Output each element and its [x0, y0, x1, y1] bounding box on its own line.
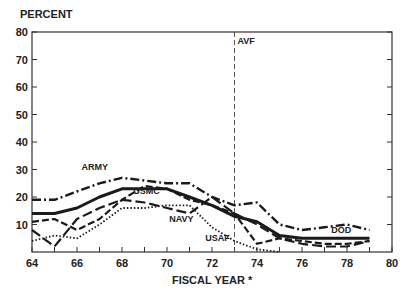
- avf-label: AVF: [238, 36, 256, 46]
- series-lines: [32, 178, 370, 252]
- y-tick-label: 70: [16, 54, 28, 66]
- label-usmc: USMC: [133, 186, 160, 196]
- plot-frame: [32, 32, 392, 252]
- label-dod: DOD: [331, 225, 352, 235]
- line-chart: PERCENT 1020304050607080 646668707274767…: [0, 0, 409, 293]
- y-tick-label: 60: [16, 81, 28, 93]
- y-tick-label: 80: [16, 26, 28, 38]
- x-tick-label: 70: [161, 257, 173, 269]
- x-tick-label: 72: [206, 257, 218, 269]
- y-axis-title: PERCENT: [20, 8, 73, 20]
- x-tick-label: 74: [251, 257, 264, 269]
- series-labels: ARMYUSMCNAVYUSAFDOD: [82, 162, 352, 244]
- x-axis-title: FISCAL YEAR *: [172, 274, 253, 286]
- y-tick-label: 20: [16, 191, 28, 203]
- x-tick-label: 64: [26, 257, 39, 269]
- y-tick-label: 30: [16, 164, 28, 176]
- series-usmc-line: [32, 186, 370, 244]
- y-tick-label: 50: [16, 109, 28, 121]
- x-tick-label: 68: [116, 257, 128, 269]
- x-axis: 646668707274767880: [26, 247, 398, 269]
- series-dod-line: [32, 189, 370, 239]
- label-army: ARMY: [82, 162, 109, 172]
- x-tick-label: 78: [341, 257, 353, 269]
- x-tick-label: 76: [296, 257, 308, 269]
- x-tick-label: 66: [71, 257, 83, 269]
- x-tick-label: 80: [386, 257, 398, 269]
- label-navy: NAVY: [169, 214, 193, 224]
- y-tick-label: 10: [16, 219, 28, 231]
- label-usaf: USAF: [205, 233, 230, 243]
- y-tick-label: 40: [16, 136, 28, 148]
- y-axis: 1020304050607080: [16, 26, 392, 231]
